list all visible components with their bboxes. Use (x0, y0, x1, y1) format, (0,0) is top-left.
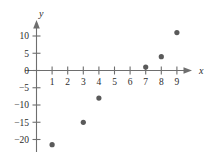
scatter-plot-figure: 1 2 3 4 5 6 7 8 9 10 5 0 −5 −10 −15 −20 … (0, 0, 220, 157)
y-tick-label-neg5: −5 (19, 83, 29, 93)
y-tick-label-neg10: −10 (14, 100, 29, 110)
y-tick-label-neg15: −15 (14, 118, 29, 128)
y-tick-label-0: 0 (24, 66, 29, 76)
x-tick-label-5: 5 (112, 77, 117, 87)
x-axis-arrowhead (184, 67, 193, 74)
data-point (81, 120, 86, 125)
y-axis (33, 20, 40, 152)
data-point (50, 142, 55, 147)
y-axis-arrowhead (33, 20, 40, 29)
y-tick-label-10: 10 (20, 31, 30, 41)
x-axis (25, 67, 192, 74)
x-tick-label-3: 3 (81, 77, 86, 87)
scatter-data-points (50, 30, 180, 147)
data-point (159, 54, 164, 59)
data-point (174, 30, 179, 35)
y-tick-label-5: 5 (24, 49, 29, 59)
x-tick-label-9: 9 (175, 77, 180, 87)
x-axis-tick-labels: 1 2 3 4 5 6 7 8 9 (50, 77, 180, 87)
y-tick-label-neg20: −20 (14, 135, 29, 145)
x-tick-label-8: 8 (159, 77, 164, 87)
plot-canvas: 1 2 3 4 5 6 7 8 9 10 5 0 −5 −10 −15 −20 … (0, 0, 220, 157)
x-tick-label-2: 2 (65, 77, 70, 87)
x-tick-label-4: 4 (97, 77, 102, 87)
y-axis-tick-labels: 10 5 0 −5 −10 −15 −20 (14, 31, 29, 144)
data-point (96, 96, 101, 101)
x-axis-name-label: x (198, 65, 204, 76)
x-tick-label-7: 7 (143, 77, 148, 87)
x-tick-label-1: 1 (50, 77, 55, 87)
data-point (143, 65, 148, 70)
x-tick-label-6: 6 (128, 77, 133, 87)
y-axis-name-label: y (38, 8, 44, 19)
